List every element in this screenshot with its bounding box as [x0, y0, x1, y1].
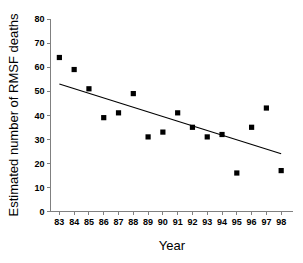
y-tick-label: 20: [34, 159, 44, 169]
y-tick-label: 70: [34, 38, 44, 48]
x-tick-label: 86: [99, 217, 109, 227]
y-axis-ticks: 01020304050607080: [34, 14, 50, 217]
data-point-marker: [234, 170, 239, 175]
chart-canvas: 01020304050607080 8384858687888990919293…: [0, 0, 303, 263]
x-tick-label: 94: [217, 217, 227, 227]
data-point-marker: [190, 125, 195, 130]
data-point-marker: [279, 168, 284, 173]
x-tick-label: 93: [202, 217, 212, 227]
x-tick-label: 85: [84, 217, 94, 227]
data-point-marker: [72, 67, 77, 72]
data-point-marker: [264, 105, 269, 110]
x-axis-title: Year: [159, 238, 186, 253]
data-point-marker: [249, 125, 254, 130]
x-tick-label: 97: [261, 217, 271, 227]
x-tick-label: 95: [232, 217, 242, 227]
x-tick-label: 83: [54, 217, 64, 227]
data-point-marker: [175, 110, 180, 115]
data-point-marker: [145, 134, 150, 139]
y-axis-title: Estimated number of RMSF deaths: [6, 13, 21, 217]
data-point-marker: [116, 110, 121, 115]
x-tick-label: 92: [187, 217, 197, 227]
x-axis-ticks: 83848586878889909192939495969798: [54, 212, 286, 227]
x-tick-label: 91: [173, 217, 183, 227]
data-point-marker: [57, 55, 62, 60]
y-tick-label: 30: [34, 135, 44, 145]
data-point-marker: [219, 132, 224, 137]
data-point-marker: [205, 134, 210, 139]
y-tick-label: 60: [34, 62, 44, 72]
data-point-marker: [160, 129, 165, 134]
axes-group: [51, 19, 294, 212]
trend-line-group: [59, 84, 281, 154]
y-tick-label: 10: [34, 183, 44, 193]
x-tick-label: 98: [276, 217, 286, 227]
scatter-plot-figure: 01020304050607080 8384858687888990919293…: [0, 0, 303, 263]
data-point-marker: [131, 91, 136, 96]
x-tick-label: 89: [143, 217, 153, 227]
x-tick-label: 84: [69, 217, 79, 227]
x-tick-label: 96: [247, 217, 257, 227]
data-points-group: [57, 55, 284, 176]
x-tick-label: 88: [128, 217, 138, 227]
regression-trend-line: [59, 84, 281, 154]
y-tick-label: 40: [34, 111, 44, 121]
data-point-marker: [101, 115, 106, 120]
data-point-marker: [86, 86, 91, 91]
y-tick-label: 80: [34, 14, 44, 24]
y-tick-label: 0: [39, 207, 44, 217]
x-tick-label: 90: [158, 217, 168, 227]
x-tick-label: 87: [114, 217, 124, 227]
y-tick-label: 50: [34, 86, 44, 96]
